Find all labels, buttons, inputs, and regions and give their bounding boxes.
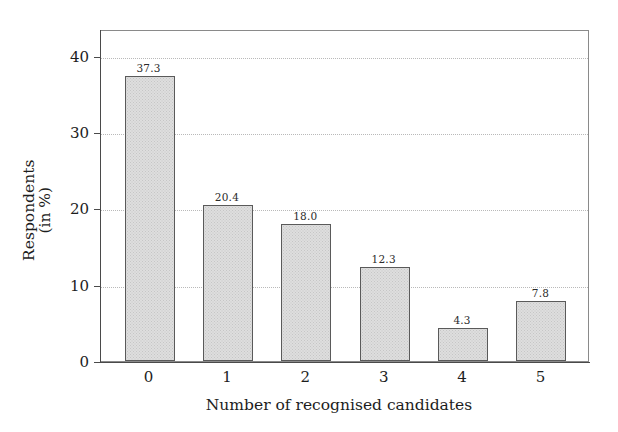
bar-value-label: 12.3 (372, 253, 396, 265)
y-tick-mark (94, 133, 100, 134)
bar (360, 267, 410, 361)
x-tick-label: 0 (144, 368, 154, 386)
y-tick-mark (94, 286, 100, 287)
x-tick-label: 4 (457, 368, 467, 386)
bar (516, 301, 566, 361)
bar (438, 328, 488, 361)
bar (125, 76, 175, 361)
y-axis-title-line2: (in %) (38, 159, 54, 260)
x-tick-label: 5 (536, 368, 546, 386)
y-tick-mark (94, 57, 100, 58)
y-tick-mark (94, 362, 100, 363)
y-axis-title: Respondents (in %) (14, 120, 62, 300)
x-tick-label: 2 (301, 368, 311, 386)
bar-value-label: 4.3 (453, 314, 470, 326)
plot-area (100, 30, 589, 362)
y-axis-line (100, 30, 101, 363)
bar-value-label: 18.0 (293, 210, 317, 222)
bar-value-label: 7.8 (532, 287, 549, 299)
x-tick-label: 3 (379, 368, 389, 386)
y-tick-mark (94, 209, 100, 210)
bar (203, 205, 253, 361)
y-axis-title-line1: Respondents (22, 159, 38, 260)
bars-layer (101, 31, 588, 361)
x-axis-line (100, 362, 590, 363)
x-axis-title: Number of recognised candidates (0, 396, 618, 414)
x-tick-label: 1 (222, 368, 232, 386)
bar-value-label: 20.4 (215, 191, 239, 203)
y-tick-label: 0 (0, 353, 89, 371)
bar-value-label: 37.3 (136, 62, 160, 74)
chart-screenshot: 010203040 012345 37.320.418.012.34.37.8 … (0, 0, 618, 432)
y-tick-label: 40 (0, 48, 89, 66)
bar (281, 224, 331, 361)
